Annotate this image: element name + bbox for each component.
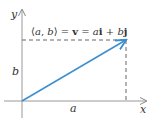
y-axis-label: y — [10, 8, 18, 21]
vector-arrow — [22, 41, 125, 102]
vector-equation: ⟨a, b⟩ = v = ai + bj — [31, 26, 127, 37]
vector-diagram: y x b a ⟨a, b⟩ = v = ai + bj — [0, 0, 152, 128]
horizontal-component-label: a — [70, 102, 77, 115]
vertical-component-label: b — [12, 65, 19, 78]
x-axis-label: x — [140, 103, 147, 116]
